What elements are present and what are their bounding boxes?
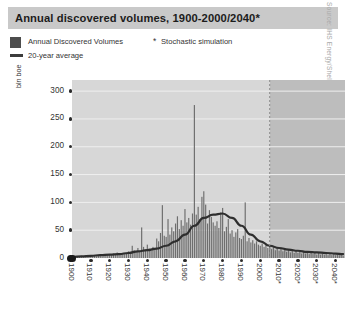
- x-axis-tick-marker: [259, 259, 262, 262]
- chart-figure: Annual discovered volumes, 1900-2000/204…: [0, 0, 361, 315]
- x-axis-tick-label: 1940: [142, 263, 151, 281]
- x-axis-tick-label: 1990: [236, 263, 245, 281]
- axis-tick-markers: 1900191019201930194019501960197019801990…: [0, 0, 361, 315]
- x-axis-tick-marker: [334, 259, 337, 262]
- x-axis-tick-marker: [69, 255, 76, 262]
- y-axis-tick-marker: [69, 117, 72, 120]
- x-axis-tick-marker: [221, 259, 224, 262]
- y-axis-tick-marker: [69, 145, 72, 148]
- x-axis-tick-marker: [164, 259, 167, 262]
- x-axis-tick-marker: [183, 259, 186, 262]
- x-axis-tick-label: 2000: [255, 263, 264, 281]
- x-axis-tick-label: 1920: [104, 263, 113, 281]
- x-axis-tick-marker: [127, 259, 130, 262]
- y-axis-tick-marker: [69, 89, 72, 92]
- x-axis-tick-marker: [277, 259, 280, 262]
- x-axis-tick-marker: [240, 259, 243, 262]
- y-axis-tick-marker: [69, 228, 72, 231]
- x-axis-tick-marker: [89, 259, 92, 262]
- x-axis-tick-marker: [315, 259, 318, 262]
- x-axis-tick-marker: [296, 259, 299, 262]
- x-axis-tick-marker: [202, 259, 205, 262]
- x-axis-tick-label: 1950: [161, 263, 170, 281]
- x-axis-tick-label: 1970: [198, 263, 207, 281]
- x-axis-tick-label: 1980: [217, 263, 226, 281]
- x-axis-tick-label: 2020*: [293, 263, 302, 284]
- x-axis-tick-label: 2040*: [330, 263, 339, 284]
- x-axis-tick-marker: [146, 259, 149, 262]
- x-axis-tick-label: 2010*: [274, 263, 283, 284]
- y-axis-tick-marker: [69, 201, 72, 204]
- x-axis-tick-label: 1900: [67, 263, 76, 281]
- x-axis-tick-label: 1910: [85, 263, 94, 281]
- y-axis-tick-marker: [69, 173, 72, 176]
- x-axis-tick-label: 1960: [180, 263, 189, 281]
- x-axis-tick-label: 2030*: [311, 263, 320, 284]
- x-axis-tick-marker: [108, 259, 111, 262]
- x-axis-tick-label: 1930: [123, 263, 132, 281]
